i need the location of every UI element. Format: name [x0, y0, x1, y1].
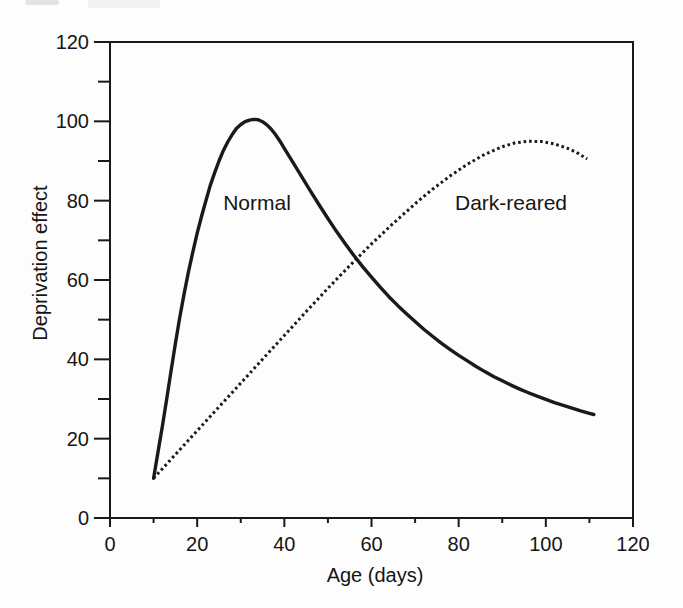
- x-axis-title: Age (days): [327, 564, 424, 587]
- y-tick-label: 40: [67, 348, 89, 370]
- x-tick-label: 40: [273, 533, 295, 555]
- dark-reared-curve-label: Dark-reared: [455, 191, 567, 215]
- x-tick-label: 20: [186, 533, 208, 555]
- x-tick-label: 100: [529, 533, 562, 555]
- y-tick-label: 0: [78, 507, 89, 529]
- x-tick-label: 120: [616, 533, 649, 555]
- figure-page: 020406080100120020406080100120 Deprivati…: [0, 0, 683, 608]
- normal-curve: [154, 119, 594, 478]
- normal-curve-label: Normal: [223, 191, 291, 215]
- y-tick-label: 60: [67, 269, 89, 291]
- y-tick-label: 80: [67, 190, 89, 212]
- y-tick-label: 100: [56, 110, 89, 132]
- x-tick-label: 80: [448, 533, 470, 555]
- x-tick-label: 60: [360, 533, 382, 555]
- y-tick-label: 120: [56, 31, 89, 53]
- y-axis-title: Deprivation effect: [29, 185, 52, 340]
- y-tick-label: 20: [67, 428, 89, 450]
- x-tick-label: 0: [104, 533, 115, 555]
- line-chart: 020406080100120020406080100120: [0, 0, 683, 608]
